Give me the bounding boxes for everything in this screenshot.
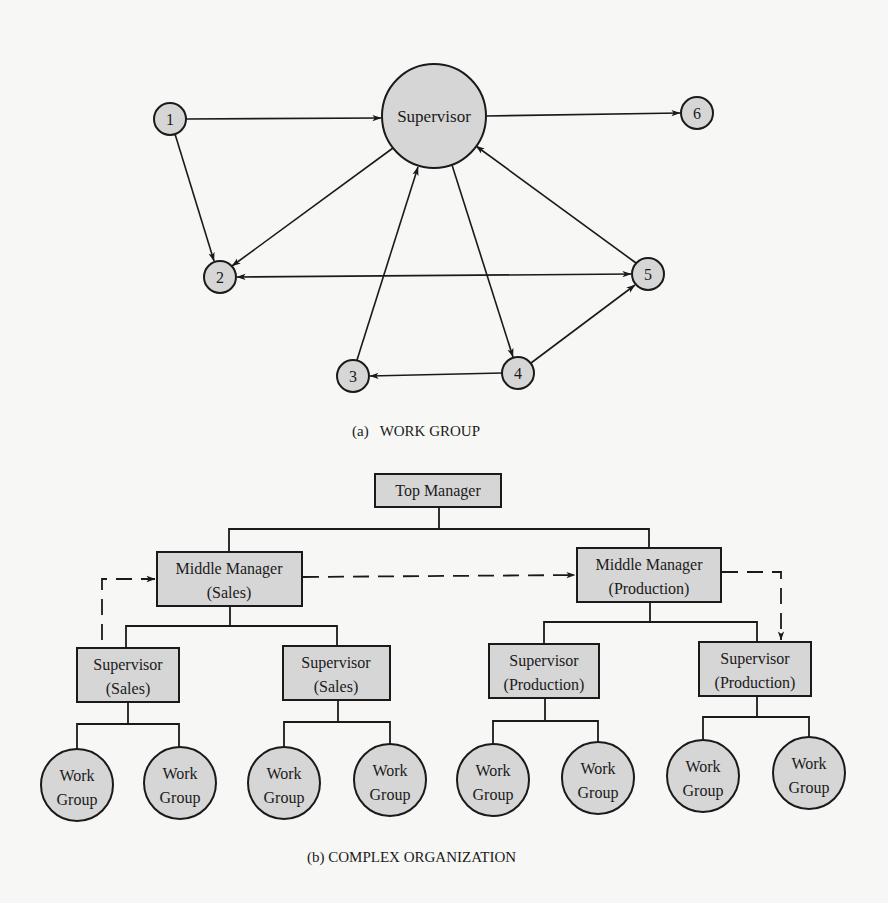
dashed-link-supervisor-sales-to-mm-sales: [102, 579, 155, 640]
work-group-label: Group: [264, 789, 305, 807]
work-group-circle-3: Work Group: [248, 747, 320, 819]
edge-3-to-supervisor: [357, 167, 418, 360]
work-group-label: Group: [473, 786, 514, 804]
supervisor-department: (Production): [504, 676, 585, 694]
work-group-label: Work: [266, 765, 301, 782]
member-node-label: 4: [514, 365, 522, 382]
supervisor-department: (Sales): [106, 680, 150, 698]
work-group-label: Work: [685, 758, 720, 775]
dashed-link-mm-sales-to-mm-production: [303, 575, 575, 577]
work-group-circle-7: Work Group: [667, 740, 739, 812]
work-group-label: Work: [162, 765, 197, 782]
supervisor-department: (Sales): [314, 678, 358, 696]
work-group-caption: (a) WORK GROUP: [352, 423, 480, 440]
work-group-circle-6: Work Group: [562, 742, 634, 814]
dashed-link-mm-production-to-supervisor-production: [722, 572, 781, 640]
edge-1-to-2: [175, 134, 214, 261]
supervisor-node: Supervisor: [382, 64, 486, 168]
supervisor-production-box-1: Supervisor (Production): [489, 644, 599, 698]
supervisor-title: Supervisor: [509, 652, 579, 670]
middle-manager-title: Middle Manager: [595, 556, 703, 574]
edge-4-to-5: [531, 285, 635, 363]
work-group-label: Group: [683, 782, 724, 800]
supervisor-title: Supervisor: [301, 654, 371, 672]
work-group-circle-1: Work Group: [41, 749, 113, 821]
supervisor-title: Supervisor: [720, 650, 790, 668]
supervisor-department: (Production): [715, 674, 796, 692]
edge-5-to-supervisor: [476, 146, 636, 263]
supervisor-sales-box-1: Supervisor (Sales): [77, 648, 179, 702]
work-group-label: Group: [370, 786, 411, 804]
edge-2-to-5-bidirectional: [237, 274, 631, 277]
work-group-label: Work: [580, 760, 615, 777]
work-group-circle-8: Work Group: [773, 737, 845, 809]
member-node-label: 1: [166, 111, 174, 128]
supervisor-node-label: Supervisor: [397, 107, 471, 126]
member-node-6: 6: [681, 97, 713, 129]
edge-supervisor-to-2: [232, 148, 393, 266]
middle-manager-production-box: Middle Manager (Production): [577, 548, 721, 602]
member-node-1: 1: [154, 103, 186, 135]
work-group-label: Group: [57, 791, 98, 809]
member-node-4: 4: [502, 357, 534, 389]
middle-manager-title: Middle Manager: [175, 560, 283, 578]
member-node-label: 2: [216, 269, 224, 286]
organization-diagram: Supervisor 1 2 3 4 5 6 (a) WORK GROUP: [0, 0, 888, 903]
work-group-circle-2: Work Group: [144, 747, 216, 819]
member-node-3: 3: [337, 360, 369, 392]
work-group-circle-4: Work Group: [354, 744, 426, 816]
work-group-label: Group: [789, 779, 830, 797]
work-group-label: Group: [578, 784, 619, 802]
work-group-label: Work: [475, 762, 510, 779]
middle-manager-department: (Production): [609, 580, 690, 598]
top-manager-box: Top Manager: [375, 474, 501, 507]
supervisor-production-box-2: Supervisor (Production): [699, 642, 811, 696]
member-node-5: 5: [632, 258, 664, 290]
supervisor-sales-box-2: Supervisor (Sales): [283, 646, 390, 700]
member-node-label: 3: [349, 368, 357, 385]
middle-manager-department: (Sales): [207, 584, 251, 602]
org-connectors: [77, 507, 809, 749]
top-manager-label: Top Manager: [395, 482, 481, 500]
middle-manager-sales-box: Middle Manager (Sales): [157, 552, 302, 606]
edge-supervisor-to-4: [452, 165, 513, 357]
edge-1-to-supervisor: [186, 118, 381, 119]
edge-supervisor-to-6: [486, 113, 680, 116]
work-group-label: Group: [160, 789, 201, 807]
work-group-circle-5: Work Group: [457, 744, 529, 816]
member-node-label: 5: [644, 266, 652, 283]
edge-4-to-3: [370, 373, 502, 376]
work-group-label: Work: [372, 762, 407, 779]
work-group-diagram: Supervisor 1 2 3 4 5 6 (a) WORK GROUP: [154, 64, 713, 440]
member-node-label: 6: [693, 105, 701, 122]
complex-organization-caption: (b) COMPLEX ORGANIZATION: [307, 849, 516, 866]
member-node-2: 2: [204, 261, 236, 293]
supervisor-title: Supervisor: [93, 656, 163, 674]
work-group-label: Work: [791, 755, 826, 772]
complex-organization-chart: Top Manager Middle Manager (Sales) Middl…: [41, 474, 845, 866]
work-group-label: Work: [59, 767, 94, 784]
